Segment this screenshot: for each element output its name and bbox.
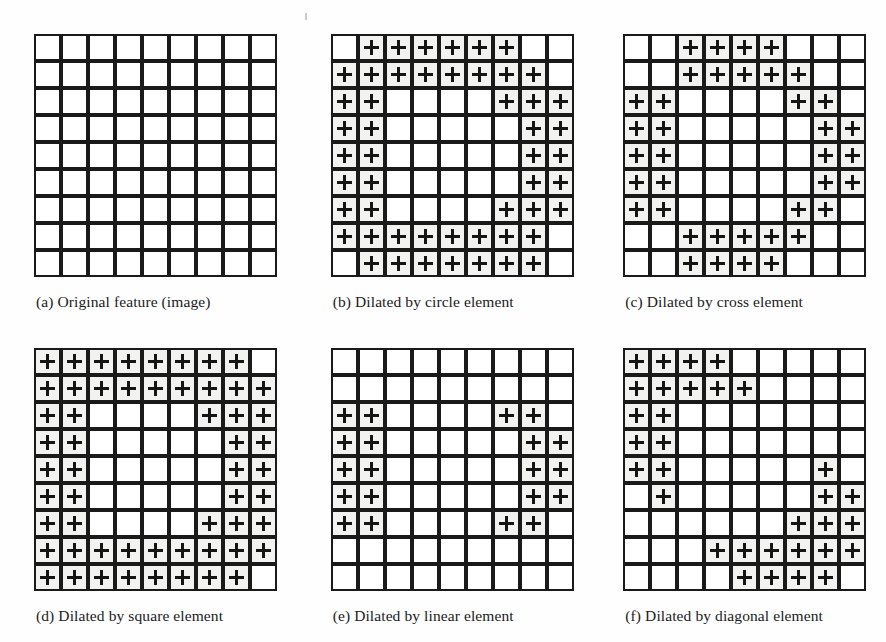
- grid-cell-marked: [115, 375, 142, 402]
- grid-cell-empty: [439, 483, 466, 510]
- plus-icon: [791, 543, 806, 558]
- scan-artifact-speck: [305, 13, 307, 20]
- plus-icon: [499, 40, 514, 55]
- grid-cell-empty: [250, 196, 277, 223]
- plus-icon: [418, 229, 433, 244]
- grid-cell-empty: [758, 142, 785, 169]
- plus-icon: [256, 516, 271, 531]
- grid-cell-empty: [115, 88, 142, 115]
- grid-cell-empty: [785, 250, 812, 277]
- grid-cell-marked: [547, 169, 574, 196]
- grid-cell-marked: [520, 402, 547, 429]
- plus-icon: [629, 381, 644, 396]
- grid-cell-empty: [839, 34, 866, 61]
- grid-cell-empty: [466, 456, 493, 483]
- grid-cell-marked: [331, 61, 358, 88]
- grid-cell-marked: [650, 483, 677, 510]
- grid-cell-empty: [677, 510, 704, 537]
- grid-cell-empty: [677, 456, 704, 483]
- grid-cell-empty: [88, 250, 115, 277]
- grid-f: [623, 348, 866, 591]
- grid-cell-empty: [812, 402, 839, 429]
- grid-cell-empty: [758, 456, 785, 483]
- plus-icon: [818, 202, 833, 217]
- grid-cell-empty: [142, 402, 169, 429]
- grid-cell-empty: [142, 456, 169, 483]
- plus-icon: [791, 94, 806, 109]
- grid-cell-marked: [61, 537, 88, 564]
- grid-cell-marked: [812, 142, 839, 169]
- grid-cell-marked: [142, 537, 169, 564]
- grid-cell-marked: [61, 429, 88, 456]
- grid-cell-empty: [34, 169, 61, 196]
- grid-cell-marked: [331, 456, 358, 483]
- grid-cell-marked: [196, 564, 223, 591]
- grid-cell-marked: [223, 348, 250, 375]
- grid-cell-empty: [250, 34, 277, 61]
- plus-icon: [364, 40, 379, 55]
- grid-cell-empty: [358, 348, 385, 375]
- plus-icon: [256, 462, 271, 477]
- grid-cell-marked: [731, 223, 758, 250]
- grid-cell-empty: [250, 115, 277, 142]
- plus-icon: [818, 94, 833, 109]
- grid-cell-marked: [61, 375, 88, 402]
- grid-cell-empty: [250, 348, 277, 375]
- grid-cell-empty: [439, 510, 466, 537]
- grid-cell-marked: [88, 348, 115, 375]
- plus-icon: [845, 516, 860, 531]
- grid-cell-marked: [547, 456, 574, 483]
- grid-cell-empty: [439, 375, 466, 402]
- grid-cell-empty: [385, 196, 412, 223]
- grid-cell-empty: [758, 429, 785, 456]
- grid-cell-marked: [785, 223, 812, 250]
- grid-cell-empty: [466, 169, 493, 196]
- grid-cell-empty: [758, 510, 785, 537]
- plus-icon: [67, 489, 82, 504]
- grid-cell-marked: [520, 429, 547, 456]
- grid-cell-empty: [115, 61, 142, 88]
- plus-icon: [337, 516, 352, 531]
- grid-cell-marked: [358, 115, 385, 142]
- grid-cell-marked: [785, 564, 812, 591]
- grid-cell-empty: [677, 115, 704, 142]
- grid-cell-empty: [412, 375, 439, 402]
- plus-icon: [710, 67, 725, 82]
- grid-cell-empty: [142, 61, 169, 88]
- plus-icon: [364, 256, 379, 271]
- grid-cell-empty: [34, 196, 61, 223]
- grid-cell-empty: [115, 115, 142, 142]
- grid-cell-marked: [358, 169, 385, 196]
- grid-cell-empty: [466, 510, 493, 537]
- grid-cell-marked: [677, 61, 704, 88]
- plus-icon: [364, 462, 379, 477]
- grid-cell-marked: [704, 537, 731, 564]
- grid-cell-empty: [704, 88, 731, 115]
- plus-icon: [364, 489, 379, 504]
- grid-cell-marked: [385, 250, 412, 277]
- grid-cell-empty: [758, 169, 785, 196]
- plus-icon: [445, 256, 460, 271]
- plus-icon: [94, 381, 109, 396]
- plus-icon: [148, 381, 163, 396]
- grid-cell-empty: [169, 483, 196, 510]
- grid-cell-empty: [412, 88, 439, 115]
- plus-icon: [526, 121, 541, 136]
- grid-cell-marked: [812, 564, 839, 591]
- grid-cell-empty: [115, 34, 142, 61]
- grid-cell-marked: [650, 375, 677, 402]
- plus-icon: [121, 381, 136, 396]
- grid-cell-marked: [169, 564, 196, 591]
- grid-cell-empty: [250, 169, 277, 196]
- plus-icon: [710, 543, 725, 558]
- plus-icon: [818, 570, 833, 585]
- grid-cell-marked: [169, 537, 196, 564]
- grid-cell-marked: [785, 196, 812, 223]
- grid-cell-marked: [331, 169, 358, 196]
- grid-cell-marked: [223, 564, 250, 591]
- plus-icon: [629, 121, 644, 136]
- grid-cell-empty: [547, 223, 574, 250]
- grid-cell-empty: [650, 537, 677, 564]
- plus-icon: [710, 256, 725, 271]
- grid-cell-empty: [169, 402, 196, 429]
